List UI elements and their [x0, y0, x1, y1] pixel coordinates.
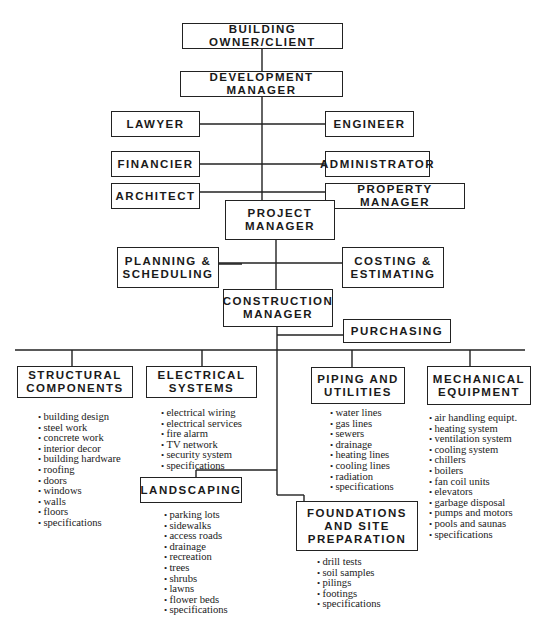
list-item: boilers	[429, 466, 517, 477]
node-landscaping: LANDSCAPING	[140, 477, 242, 503]
list-item: air handling equipt.	[429, 413, 517, 424]
list-item: electrical wiring	[161, 408, 242, 419]
org-chart: BUILDING OWNER/CLIENT DEVELOPMENT MANAGE…	[0, 0, 548, 628]
list-item: water lines	[330, 408, 394, 419]
node-property-manager: PROPERTY MANAGER	[325, 183, 465, 209]
list-item: parking lots	[164, 510, 228, 521]
node-lawyer: LAWYER	[111, 111, 200, 137]
list-item: building design	[38, 412, 121, 423]
node-foundations-site-preparation: FOUNDATIONS AND SITE PREPARATION	[296, 501, 418, 551]
node-financier: FINANCIER	[111, 151, 200, 177]
list-item: roofing	[38, 465, 121, 476]
list-landscaping: parking lots sidewalks access roads drai…	[164, 510, 228, 616]
node-piping-utilities: PIPING AND UTILITIES	[311, 367, 405, 404]
list-item: drill tests	[317, 557, 381, 568]
node-architect: ARCHITECT	[111, 183, 200, 209]
list-item: specifications	[38, 518, 121, 529]
list-item: specifications	[330, 482, 394, 493]
node-construction-manager: CONSTRUCTION MANAGER	[223, 289, 333, 327]
list-item: specifications	[164, 605, 228, 616]
list-item: pools and saunas	[429, 519, 517, 530]
list-item: specifications	[429, 530, 517, 541]
list-item: specifications	[317, 599, 381, 610]
list-item: specifications	[161, 461, 242, 472]
node-costing-estimating: COSTING & ESTIMATING	[342, 247, 444, 288]
list-item: trees	[164, 563, 228, 574]
list-structural-components: building design steel work concrete work…	[38, 412, 121, 529]
node-development-manager: DEVELOPMENT MANAGER	[180, 71, 343, 97]
node-purchasing: PURCHASING	[343, 319, 451, 343]
node-building-owner-client: BUILDING OWNER/CLIENT	[182, 23, 343, 49]
list-electrical-systems: electrical wiring electrical services fi…	[161, 408, 242, 472]
list-piping-utilities: water lines gas lines sewers drainage he…	[330, 408, 394, 493]
list-mechanical-equipment: air handling equipt. heating system vent…	[429, 413, 517, 540]
node-electrical-systems: ELECTRICAL SYSTEMS	[146, 366, 257, 398]
node-project-manager: PROJECT MANAGER	[225, 200, 335, 240]
node-administrator: ADMINISTRATOR	[325, 151, 430, 177]
node-structural-components: STRUCTURAL COMPONENTS	[17, 366, 133, 398]
list-foundations-site-preparation: drill tests soil samples pilings footing…	[317, 557, 381, 610]
list-item: cooling lines	[330, 461, 394, 472]
node-engineer: ENGINEER	[325, 111, 414, 137]
node-mechanical-equipment: MECHANICAL EQUIPMENT	[427, 366, 531, 405]
node-planning-scheduling: PLANNING & SCHEDULING	[117, 247, 219, 288]
